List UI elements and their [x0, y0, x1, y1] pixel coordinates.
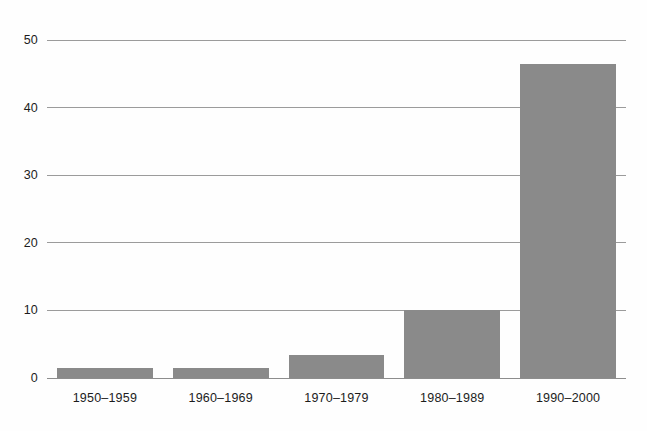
bar	[404, 310, 500, 378]
bar	[57, 368, 153, 378]
y-tick-label: 20	[4, 237, 38, 250]
y-tick-label: 50	[4, 34, 38, 47]
bar	[520, 64, 616, 378]
plot-area	[47, 40, 626, 378]
y-tick-label: 10	[4, 304, 38, 317]
x-tick-label: 1980–1989	[394, 386, 510, 410]
x-tick-label: 1990–2000	[510, 386, 626, 410]
y-axis-tick-labels: 0 10 20 30 40 50	[0, 40, 38, 378]
y-tick-label: 40	[4, 101, 38, 114]
bar	[289, 355, 385, 378]
bars-layer	[47, 40, 626, 378]
y-tick-label: 0	[4, 372, 38, 385]
y-tick-label: 30	[4, 169, 38, 182]
bar	[173, 368, 269, 378]
x-tick-label: 1970–1979	[279, 386, 395, 410]
x-tick-label: 1960–1969	[163, 386, 279, 410]
x-tick-label: 1950–1959	[47, 386, 163, 410]
x-axis-tick-labels: 1950–1959 1960–1969 1970–1979 1980–1989 …	[47, 386, 626, 410]
bar-chart: 0 10 20 30 40 50 1950–1959 1960–1969 197…	[0, 0, 647, 431]
